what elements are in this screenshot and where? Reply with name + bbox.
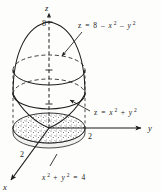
base-circle-equation-label: x 2 + y 2 = 4 [41, 170, 85, 182]
z-tick-8-label: 8 [42, 19, 46, 28]
base-y: y [60, 173, 65, 182]
cone-x: x [108, 108, 113, 117]
base-x: x [41, 173, 46, 182]
x-tick-2-label: 2 [20, 150, 24, 159]
parab-minus2: – [119, 21, 124, 30]
z-axis-label: z [44, 3, 49, 13]
parab-y: y [127, 21, 132, 30]
base-x-pow: 2 [47, 172, 50, 178]
svg-text:x 2 +: x 2 + y 2 = 4 [41, 170, 85, 182]
paraboloid-equation-label: z = 8 – x 2 – y 2 [78, 18, 136, 30]
x-axis-label: x [2, 182, 7, 192]
leader-base-circle [50, 154, 57, 166]
parab-eq: = [85, 21, 89, 30]
parab-const: 8 [93, 21, 97, 30]
figure-svg: z y x 8 2 2 z = 8 – x 2 – y 2 z = [0, 0, 161, 192]
cone-lhs: z [94, 108, 98, 117]
parab-x: x [108, 21, 113, 30]
cone-eq: = [101, 108, 105, 117]
cone-y: y [128, 108, 133, 117]
parab-lhs: z [78, 21, 82, 30]
projection-disk [13, 113, 85, 148]
y-tick-2-label: 2 [88, 132, 92, 141]
svg-text:z = 8: z = 8 – x 2 – y 2 [78, 18, 136, 30]
base-plus: + [53, 173, 57, 182]
cone-x-pow: 2 [115, 107, 118, 113]
base-eq: = [73, 173, 77, 182]
parab-x-pow: 2 [114, 20, 117, 26]
parab-minus1: – [100, 21, 105, 30]
y-axis-label: y [147, 123, 152, 133]
cone-equation-label: z = x 2 + y 2 [94, 105, 137, 117]
parab-y-pow: 2 [133, 20, 136, 26]
cone-plus: + [121, 108, 125, 117]
base-rhs: 4 [81, 173, 85, 182]
z-axis [46, 13, 53, 128]
intersection-ellipse [13, 55, 85, 70]
svg-text:z = x: z = x 2 + y 2 [94, 105, 137, 117]
base-y-pow: 2 [67, 172, 70, 178]
math-figure: z y x 8 2 2 z = 8 – x 2 – y 2 z = [0, 0, 161, 192]
cone-y-pow: 2 [134, 107, 137, 113]
